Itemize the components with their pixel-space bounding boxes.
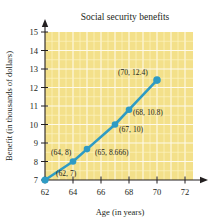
x-axis-title: Age (in years) [96, 207, 145, 217]
annotation-64-8: (64, 8) [51, 148, 72, 157]
y-tick-label-15: 15 [30, 27, 39, 37]
x-tick-labels: 62 64 66 68 70 72 [41, 187, 190, 197]
y-tick-label-8: 8 [34, 157, 38, 167]
data-point-67-10 [112, 121, 119, 128]
chart-title: Social security benefits [81, 12, 170, 22]
y-tick-label-7: 7 [34, 175, 38, 185]
data-point-65-8666 [84, 146, 91, 153]
y-tick-label-10: 10 [30, 120, 39, 130]
x-tick-label-68: 68 [125, 187, 134, 197]
x-axis-arrow [200, 177, 208, 183]
x-tick-label-72: 72 [181, 187, 190, 197]
y-tick-labels: 7 8 9 10 11 12 13 14 15 [30, 27, 39, 185]
x-tick-label-66: 66 [97, 187, 106, 197]
data-point-64-8 [70, 158, 77, 165]
annotation-70-124: (70, 12.4) [118, 68, 148, 77]
annotation-62-7: (62, 7) [56, 169, 77, 178]
social-security-benefits-chart: 7 8 9 10 11 12 13 14 15 62 64 66 68 70 7… [0, 0, 217, 223]
annotation-65-8666: (65, 8.666) [95, 148, 129, 157]
y-tick-label-14: 14 [30, 46, 39, 56]
data-point-62-7 [41, 176, 48, 183]
data-point-70-124 [153, 76, 161, 84]
data-point-68-108 [126, 106, 133, 113]
y-tick-label-12: 12 [30, 83, 39, 93]
annotation-67-10: (67, 10) [119, 125, 144, 134]
y-axis-title: Benefit (in thousands of dollars) [4, 51, 14, 161]
x-tick-label-64: 64 [69, 187, 78, 197]
annotation-68-108: (68, 10.8) [133, 108, 163, 117]
x-tick-label-70: 70 [153, 187, 162, 197]
y-tick-label-13: 13 [30, 64, 39, 74]
chart-canvas: 7 8 9 10 11 12 13 14 15 62 64 66 68 70 7… [0, 0, 217, 223]
x-tick-label-62: 62 [41, 187, 50, 197]
y-tick-label-11: 11 [30, 101, 38, 111]
y-axis-arrow [42, 19, 48, 27]
y-tick-label-9: 9 [34, 138, 38, 148]
